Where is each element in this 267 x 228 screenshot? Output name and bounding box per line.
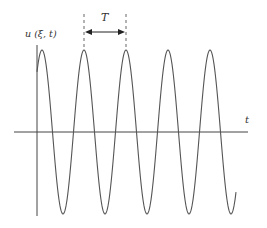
period-label: T: [101, 11, 110, 24]
wave-diagram: T u (ξ, t) t: [0, 0, 267, 228]
y-axis-label: u (ξ, t): [25, 28, 57, 39]
period-arrow: [85, 29, 125, 35]
x-axis-label: t: [245, 114, 250, 125]
